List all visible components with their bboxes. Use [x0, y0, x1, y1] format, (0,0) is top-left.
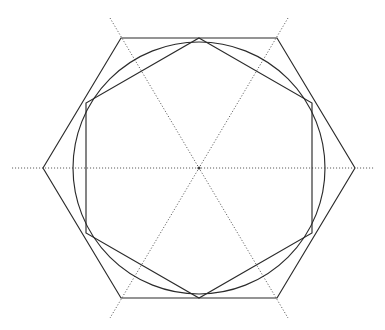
diameter-lines-group — [12, 18, 374, 318]
center-point — [197, 166, 200, 169]
geometry-canvas — [0, 0, 385, 330]
geometry-figure — [0, 0, 385, 330]
